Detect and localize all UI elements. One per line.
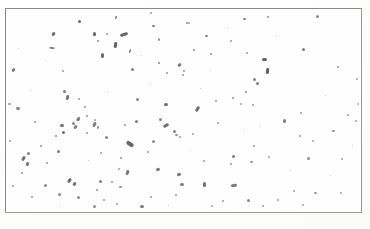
particle bbox=[57, 150, 60, 153]
particle bbox=[125, 170, 130, 176]
particle bbox=[21, 172, 23, 174]
particle bbox=[120, 157, 122, 159]
particle bbox=[173, 130, 176, 133]
particle bbox=[340, 192, 342, 194]
particle bbox=[156, 167, 161, 171]
particle bbox=[97, 126, 100, 130]
particle bbox=[307, 157, 310, 160]
particle bbox=[253, 78, 256, 81]
particle bbox=[231, 184, 237, 188]
particle bbox=[63, 90, 66, 93]
particle bbox=[126, 140, 135, 148]
particle bbox=[103, 199, 105, 201]
particle bbox=[86, 132, 88, 134]
particle bbox=[16, 106, 21, 110]
particle bbox=[316, 15, 319, 18]
particle bbox=[25, 162, 30, 167]
background-speck bbox=[244, 130, 245, 131]
particle bbox=[73, 125, 78, 130]
background-speck bbox=[18, 48, 19, 49]
particle bbox=[111, 181, 113, 183]
particle bbox=[232, 155, 235, 158]
particle bbox=[243, 18, 246, 20]
background-speck bbox=[190, 150, 191, 151]
particle bbox=[128, 49, 131, 53]
particle bbox=[215, 100, 217, 102]
particle bbox=[94, 119, 96, 121]
background-speck bbox=[108, 92, 109, 93]
particle bbox=[262, 205, 264, 207]
particle bbox=[11, 68, 16, 73]
particle bbox=[99, 180, 102, 183]
particle bbox=[27, 152, 30, 155]
particle bbox=[9, 140, 11, 142]
particle bbox=[355, 120, 357, 122]
particle bbox=[78, 98, 80, 100]
particle bbox=[299, 135, 301, 137]
particle bbox=[175, 194, 177, 196]
particle bbox=[97, 40, 99, 42]
particle bbox=[267, 16, 269, 18]
particle bbox=[78, 20, 81, 23]
particle bbox=[250, 161, 253, 163]
background-speck bbox=[30, 90, 31, 91]
background-speck bbox=[210, 70, 211, 71]
particle bbox=[177, 63, 182, 68]
particle bbox=[277, 199, 279, 201]
particle bbox=[217, 122, 219, 124]
particle bbox=[179, 136, 181, 138]
particle bbox=[86, 115, 88, 117]
particle bbox=[268, 156, 270, 158]
particle bbox=[62, 70, 64, 72]
particle bbox=[31, 196, 33, 198]
particle bbox=[147, 151, 149, 153]
particle bbox=[341, 158, 343, 160]
background-speck bbox=[325, 95, 326, 96]
background-speck bbox=[88, 160, 89, 161]
particle bbox=[302, 48, 305, 51]
particle bbox=[96, 189, 98, 191]
particle bbox=[203, 182, 206, 187]
particle bbox=[93, 205, 96, 208]
particle bbox=[119, 186, 122, 188]
particle bbox=[230, 40, 232, 42]
background-speck bbox=[290, 170, 291, 171]
particle bbox=[195, 106, 201, 113]
particle bbox=[262, 58, 267, 61]
particle bbox=[252, 104, 254, 106]
particle bbox=[247, 199, 250, 202]
particle bbox=[158, 38, 160, 41]
particle bbox=[101, 53, 104, 58]
particle bbox=[246, 52, 248, 54]
particle bbox=[192, 133, 194, 135]
particle bbox=[332, 130, 336, 133]
particle bbox=[84, 106, 86, 108]
particle bbox=[177, 172, 182, 176]
particle bbox=[300, 112, 302, 114]
particle bbox=[46, 162, 48, 164]
particle bbox=[182, 74, 184, 76]
particle bbox=[356, 78, 358, 80]
particle bbox=[302, 204, 304, 206]
particle bbox=[120, 32, 129, 37]
particle bbox=[266, 68, 270, 74]
particle bbox=[337, 66, 339, 68]
particle bbox=[283, 119, 286, 123]
particle bbox=[93, 32, 96, 36]
particle bbox=[188, 22, 190, 24]
particle bbox=[115, 16, 118, 20]
particle bbox=[240, 103, 242, 105]
background-speck bbox=[45, 60, 46, 61]
particle bbox=[114, 42, 118, 48]
background-speck bbox=[330, 175, 331, 176]
particle bbox=[164, 103, 168, 106]
particle bbox=[203, 160, 205, 162]
background-speck bbox=[260, 126, 261, 127]
particle bbox=[62, 131, 65, 134]
particle bbox=[51, 32, 56, 37]
particle bbox=[183, 70, 185, 72]
particle bbox=[163, 123, 170, 129]
particle bbox=[44, 184, 47, 187]
particle bbox=[210, 53, 212, 55]
particle bbox=[357, 103, 359, 105]
